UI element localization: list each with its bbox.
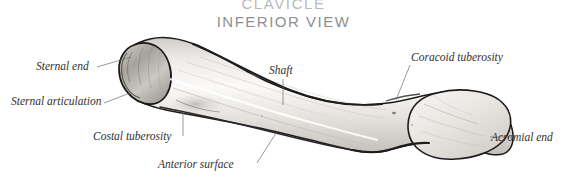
leader-sternal-articulation [104,93,130,103]
label-sternal-articulation: Sternal articulation [11,95,101,108]
leader-coracoid-tuberosity [396,65,410,100]
sternal-end-head [119,43,171,104]
clavicle-figure: CLAVICLE INFERIOR VIEW Sternal end Stern… [0,0,567,194]
costal-tuberosity-shading [172,95,220,113]
nutrient-foramen-1 [392,112,396,114]
label-costal-tuberosity: Costal tuberosity [93,130,171,143]
leader-anterior-surface [257,133,276,163]
figure-subtitle: INFERIOR VIEW [0,13,567,30]
nutrient-foramen-3 [261,115,263,116]
label-shaft: Shaft [269,64,293,77]
label-acromial-end: Acromial end [491,131,553,144]
nutrient-foramen-2 [411,124,413,126]
label-sternal-end: Sternal end [36,60,89,73]
label-anterior-surface: Anterior surface [158,158,234,171]
label-coracoid-tuberosity: Coracoid tuberosity [411,51,503,64]
